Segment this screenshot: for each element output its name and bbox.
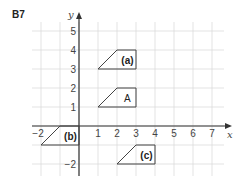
- y-arrow-icon: [76, 12, 82, 19]
- y-tick-label: 4: [70, 45, 76, 56]
- x-tick-label: 3: [133, 128, 139, 139]
- shape-label-A: A: [124, 93, 131, 104]
- y-tick-label: −2: [65, 159, 77, 170]
- y-tick-label: 2: [70, 83, 76, 94]
- shape-label-a: (a): [121, 55, 133, 66]
- y-axis-label: y: [67, 9, 74, 20]
- x-tick-label: 1: [95, 128, 101, 139]
- x-tick-label: 4: [152, 128, 158, 139]
- shape-label-c: (c): [140, 150, 152, 161]
- x-tick-label: 5: [171, 128, 177, 139]
- coordinate-grid: x y −2123456754321−2 A(a)(b)(c): [0, 0, 241, 182]
- shape-label-b: (b): [64, 131, 77, 142]
- x-tick-label: 2: [114, 128, 120, 139]
- x-tick-label: 7: [209, 128, 215, 139]
- x-tick-label: −2: [32, 128, 44, 139]
- x-axis-label: x: [227, 129, 233, 140]
- y-tick-label: 1: [70, 102, 76, 113]
- axes: x y: [32, 9, 233, 176]
- y-tick-label: 3: [70, 64, 76, 75]
- y-tick-label: 5: [70, 26, 76, 37]
- x-tick-label: 6: [190, 128, 196, 139]
